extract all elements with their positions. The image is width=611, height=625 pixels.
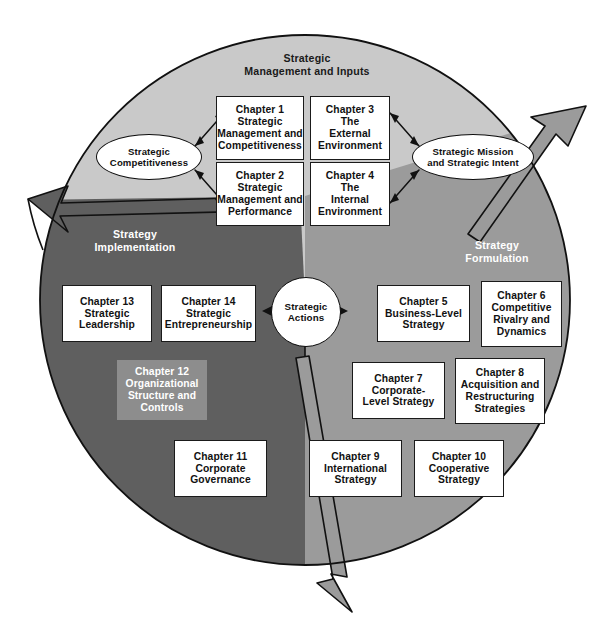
chapter-line: Internal	[331, 194, 369, 206]
chapter-line: Restructuring	[466, 391, 535, 403]
node-line: Strategic	[285, 301, 328, 312]
chapter-line: Corporate	[195, 463, 245, 475]
chapter-line: Corporate-	[372, 385, 426, 397]
chapter-line: Dynamics	[497, 326, 546, 338]
chapter-line: Environment	[318, 140, 382, 152]
chapter-line: Chapter 8	[476, 367, 524, 379]
node-line: Actions	[288, 312, 325, 323]
chapter-line: Strategic	[186, 308, 231, 320]
chapter-line: Strategy	[334, 474, 376, 486]
chapter-line: External	[329, 128, 370, 140]
node-line: and Strategic Intent	[427, 157, 519, 168]
chapter-line: Rivalry and	[493, 314, 550, 326]
chapter-line: Chapter 12	[135, 366, 189, 378]
segment-label-strategy-implementation: Strategy Implementation	[70, 228, 200, 253]
chapter-line: Level Strategy	[363, 396, 435, 408]
chapter-line: Acquisition and	[461, 379, 540, 391]
chapter-line: International	[324, 463, 387, 475]
chapter-line: Chapter 9	[331, 451, 379, 463]
node-strategic-actions[interactable]: Strategic Actions	[271, 277, 341, 347]
chapter-line: Chapter 13	[80, 296, 134, 308]
segment-label-line: Formulation	[432, 252, 562, 265]
chapter-line: The	[341, 116, 360, 128]
segment-label-strategic-management-and-inputs: Strategic Management and Inputs	[232, 52, 382, 77]
node-line: Strategic	[128, 146, 170, 157]
node-line: Strategic Mission	[432, 146, 513, 157]
chapter-line: Performance	[228, 206, 292, 218]
chapter-line: Strategic	[238, 182, 283, 194]
segment-label-line: Strategy	[70, 228, 200, 241]
chapter-line: Competitive	[491, 302, 551, 314]
chapter-line: Structure and	[128, 390, 196, 402]
chapter-box-chapter-3[interactable]: Chapter 3 The External Environment	[310, 96, 390, 160]
chapter-line: Chapter 4	[326, 170, 374, 182]
chapter-box-chapter-2[interactable]: Chapter 2 Strategic Management and Perfo…	[216, 162, 304, 226]
chapter-box-chapter-10[interactable]: Chapter 10 Cooperative Strategy	[414, 440, 504, 497]
chapter-box-chapter-5[interactable]: Chapter 5 Business-Level Strategy	[377, 285, 470, 342]
chapter-line: Strategy	[438, 474, 480, 486]
chapter-line: Controls	[140, 402, 183, 414]
chapter-box-chapter-11[interactable]: Chapter 11 Corporate Governance	[174, 440, 267, 497]
chapter-line: Organizational	[126, 378, 199, 390]
chapter-line: Chapter 10	[432, 451, 486, 463]
chapter-line: Chapter 7	[374, 373, 422, 385]
chapter-box-chapter-8[interactable]: Chapter 8 Acquisition and Restructuring …	[455, 358, 545, 424]
node-strategic-competitiveness[interactable]: Strategic Competitiveness	[96, 134, 202, 180]
chapter-line: Chapter 11	[194, 451, 248, 463]
segment-label-line: Management and Inputs	[232, 65, 382, 78]
chapter-line: Chapter 3	[326, 104, 374, 116]
chapter-line: Strategy	[402, 319, 444, 331]
chapter-line: Leadership	[79, 319, 135, 331]
chapter-line: Business-Level	[385, 308, 462, 320]
chapter-box-chapter-6[interactable]: Chapter 6 Competitive Rivalry and Dynami…	[481, 281, 562, 347]
chapter-line: Strategies	[475, 403, 526, 415]
chapter-line: Competitiveness	[218, 140, 302, 152]
segment-label-line: Strategic	[232, 52, 382, 65]
node-line: Competitiveness	[110, 157, 188, 168]
chapter-box-chapter-4[interactable]: Chapter 4 The Internal Environment	[310, 162, 390, 226]
chapter-line: Cooperative	[429, 463, 490, 475]
chapter-box-chapter-13[interactable]: Chapter 13 Strategic Leadership	[62, 285, 152, 342]
segment-label-line: Implementation	[70, 241, 200, 254]
diagram-canvas: Strategic Management and Inputs Strategy…	[0, 0, 611, 625]
chapter-box-chapter-7[interactable]: Chapter 7 Corporate- Level Strategy	[352, 362, 445, 419]
chapter-box-chapter-1[interactable]: Chapter 1 Strategic Management and Compe…	[216, 96, 304, 160]
chapter-line: Chapter 1	[236, 104, 284, 116]
chapter-line: Strategic	[85, 308, 130, 320]
segment-label-line: Strategy	[432, 239, 562, 252]
chapter-box-chapter-9[interactable]: Chapter 9 International Strategy	[309, 440, 402, 497]
chapter-line: Chapter 6	[497, 290, 545, 302]
chapter-line: Environment	[318, 206, 382, 218]
chapter-line: Chapter 5	[399, 296, 447, 308]
chapter-line: Management and	[217, 194, 303, 206]
chapter-line: Chapter 14	[181, 296, 235, 308]
node-strategic-mission-and-strategic-intent[interactable]: Strategic Mission and Strategic Intent	[412, 134, 534, 180]
chapter-line: Entrepreneurship	[165, 319, 252, 331]
chapter-box-chapter-12[interactable]: Chapter 12 Organizational Structure and …	[117, 360, 207, 420]
chapter-line: Strategic	[238, 116, 283, 128]
chapter-box-chapter-14[interactable]: Chapter 14 Strategic Entrepreneurship	[161, 285, 256, 342]
chapter-line: Governance	[190, 474, 251, 486]
segment-label-strategy-formulation: Strategy Formulation	[432, 239, 562, 264]
chapter-line: Chapter 2	[236, 170, 284, 182]
chapter-line: Management and	[217, 128, 303, 140]
chapter-line: The	[341, 182, 360, 194]
